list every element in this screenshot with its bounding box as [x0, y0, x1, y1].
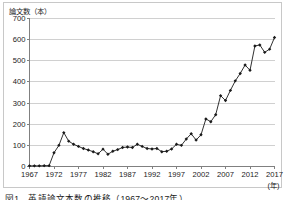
- figure-caption: 図1 英語論文本数の推移（1967～2017年）: [5, 192, 188, 200]
- data-point-markers: [28, 36, 276, 168]
- x-axis-tick-label: 1992: [139, 170, 165, 179]
- x-axis-tick-label: 2012: [237, 170, 263, 179]
- y-axis-tick-label: 300: [4, 99, 26, 108]
- axes: [27, 19, 275, 170]
- gridlines: [30, 19, 275, 146]
- x-axis-tick-label: 1982: [90, 170, 116, 179]
- x-axis-tick-label: 1987: [115, 170, 141, 179]
- figure-container: 論文数（本） 010020030040050060070019671972197…: [0, 0, 286, 200]
- x-axis-tick-label: 1967: [17, 170, 43, 179]
- x-axis-unit-label: (年): [268, 179, 280, 190]
- data-series-line: [30, 38, 275, 166]
- y-axis-tick-label: 100: [4, 141, 26, 150]
- y-axis-tick-label: 500: [4, 56, 26, 65]
- x-axis-tick-label: 2007: [213, 170, 239, 179]
- x-axis-tick-label: 2002: [188, 170, 214, 179]
- y-axis-tick-label: 600: [4, 35, 26, 44]
- x-axis-tick-label: 1977: [66, 170, 92, 179]
- y-axis-tick-label: 400: [4, 77, 26, 86]
- y-axis-tick-label: 700: [4, 14, 26, 23]
- x-axis-tick-label: 1972: [41, 170, 67, 179]
- x-axis-tick-label: 1997: [164, 170, 190, 179]
- y-axis-tick-label: 200: [4, 120, 26, 129]
